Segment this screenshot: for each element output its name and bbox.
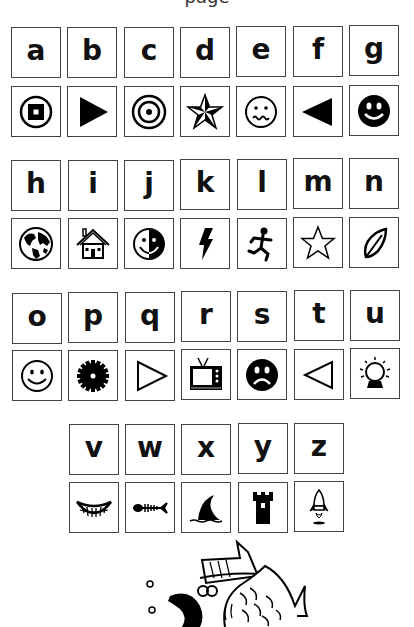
- letter-card-f: f: [293, 26, 343, 77]
- play-triangle-right-icon: [72, 92, 112, 132]
- letter-card-q: q: [125, 292, 175, 343]
- grin-icon: [74, 488, 114, 528]
- icon-card-f: [293, 86, 343, 137]
- letter: r: [199, 301, 213, 329]
- icon-card-u: [350, 348, 400, 399]
- worried-face-icon: [241, 92, 281, 132]
- letter-card-l: l: [237, 159, 287, 210]
- leaf-icon: [354, 223, 394, 263]
- letter-card-c: c: [124, 27, 174, 78]
- half-smiley-icon: [129, 224, 169, 264]
- letter: q: [140, 302, 160, 330]
- letter: f: [312, 36, 324, 64]
- triangle-right-outline-icon: [130, 356, 170, 396]
- icon-card-q: [125, 350, 175, 401]
- letter: x: [197, 434, 215, 462]
- icon-card-d: [180, 86, 230, 137]
- icon-card-y: [238, 482, 288, 533]
- rocket-icon: [299, 487, 339, 527]
- icon-card-h: [11, 218, 61, 269]
- page-header-text: page: [0, 0, 414, 7]
- television-icon: [186, 355, 226, 395]
- letter: h: [26, 170, 46, 198]
- icon-card-o: [12, 350, 62, 401]
- letter-card-b: b: [67, 27, 117, 78]
- triangle-left-filled-icon: [298, 92, 338, 132]
- icon-card-e: [236, 86, 286, 137]
- letter-card-p: p: [68, 292, 118, 343]
- letter-card-x: x: [181, 424, 231, 475]
- icon-card-c: [124, 86, 174, 137]
- lightning-icon: [185, 224, 225, 264]
- castle-tower-icon: [243, 488, 283, 528]
- smiley-filled-icon: [354, 91, 394, 131]
- icon-card-k: [180, 218, 230, 269]
- sad-face-filled-icon: [242, 355, 282, 395]
- letter: g: [364, 35, 384, 63]
- star-outline-icon: [298, 223, 338, 263]
- fish-with-hat-illustration: [130, 538, 310, 627]
- letter-card-t: t: [294, 290, 344, 341]
- letter: d: [195, 37, 215, 65]
- letter-card-z: z: [294, 423, 344, 474]
- letter: i: [88, 170, 98, 198]
- icon-card-s: [237, 349, 287, 400]
- fish-skeleton-icon: [130, 488, 170, 528]
- letter: a: [27, 37, 46, 65]
- letter: o: [27, 303, 46, 331]
- letter-card-y: y: [238, 423, 288, 474]
- icon-card-x: [181, 482, 231, 533]
- letter-card-i: i: [68, 160, 118, 211]
- letter: s: [254, 301, 271, 329]
- icon-card-l: [237, 218, 287, 269]
- shark-fin-icon: [186, 488, 226, 528]
- letter: l: [257, 169, 267, 197]
- letter: p: [83, 302, 103, 330]
- letter: c: [141, 37, 158, 65]
- letter: m: [303, 168, 332, 196]
- letter-card-n: n: [349, 158, 399, 209]
- house-icon: [73, 224, 113, 264]
- letter-card-k: k: [180, 159, 230, 210]
- icon-card-z: [294, 481, 344, 532]
- smiley-outline-icon: [17, 356, 57, 396]
- icon-card-i: [68, 218, 118, 269]
- letter: k: [196, 169, 215, 197]
- icon-card-t: [294, 349, 344, 400]
- letter-card-h: h: [11, 160, 61, 211]
- icon-card-a: [11, 86, 61, 137]
- running-person-icon: [242, 224, 282, 264]
- light-bulb-icon: [355, 354, 395, 394]
- letter: j: [144, 170, 154, 198]
- letter-card-v: v: [69, 424, 119, 475]
- square-in-circle-icon: [16, 92, 56, 132]
- icon-card-m: [293, 217, 343, 268]
- letter: n: [364, 168, 384, 196]
- icon-card-w: [125, 482, 175, 533]
- letter-card-d: d: [180, 27, 230, 78]
- icon-card-p: [68, 350, 118, 401]
- letter-card-r: r: [181, 291, 231, 342]
- bullseye-icon: [129, 92, 169, 132]
- icon-card-r: [181, 349, 231, 400]
- letter: e: [252, 36, 271, 64]
- letter-card-w: w: [125, 424, 175, 475]
- letter-card-j: j: [124, 160, 174, 211]
- letter-card-u: u: [350, 290, 400, 341]
- nautical-star-icon: [185, 92, 225, 132]
- triangle-left-outline-icon: [299, 355, 339, 395]
- globe-icon: [16, 224, 56, 264]
- letter-card-g: g: [349, 25, 399, 76]
- letter-card-a: a: [11, 27, 61, 78]
- letter-card-e: e: [236, 26, 286, 77]
- letter: v: [85, 434, 103, 462]
- icon-card-b: [67, 86, 117, 137]
- icon-card-g: [349, 85, 399, 136]
- letter: t: [312, 300, 325, 328]
- icon-card-v: [69, 482, 119, 533]
- letter: w: [137, 434, 163, 462]
- letter: u: [365, 300, 385, 328]
- letter: b: [82, 37, 102, 65]
- letter: y: [254, 433, 272, 461]
- icon-card-j: [124, 218, 174, 269]
